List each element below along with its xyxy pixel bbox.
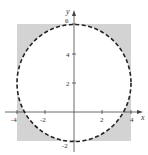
tick-label-x-neg2: -2 (40, 116, 46, 124)
tick-label-x-4: 4 (130, 116, 134, 124)
tick-label-x-2: 2 (100, 116, 104, 124)
tick-label-y-6: 6 (65, 17, 69, 25)
tick-label-y-2: 2 (66, 80, 70, 88)
x-axis-label: x (140, 113, 145, 122)
tick-label-x-neg4: -4 (11, 116, 17, 124)
region-plot: -4 -2 2 4 6 4 2 -2 x y (0, 0, 148, 155)
y-axis-arrow-icon (72, 10, 76, 16)
y-axis-label: y (65, 7, 70, 16)
tick-label-y-4: 4 (66, 51, 70, 59)
tick-label-y-neg2: -2 (62, 142, 68, 150)
